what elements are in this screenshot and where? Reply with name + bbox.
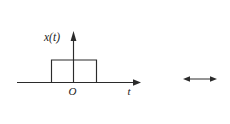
double-headed-arrow-icon [183,76,217,82]
time-axis-label: t [128,85,132,97]
waveform-diagram: x(t) O t [0,0,230,124]
arrow-right-icon [133,79,141,85]
arrow-up-icon [71,31,77,41]
signal-label: x(t) [43,31,60,44]
origin-label: O [69,85,77,97]
figure-container: x(t) O t [0,0,230,124]
relation-arrow-left-head [183,76,190,82]
relation-arrow-right-head [210,76,217,82]
